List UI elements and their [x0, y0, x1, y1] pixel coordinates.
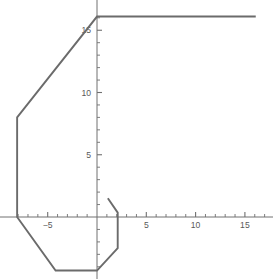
plot-canvas: −55101551015 — [0, 0, 273, 279]
tick-marks — [18, 18, 265, 267]
tick-labels: −55101551015 — [43, 25, 250, 230]
plot-figure: −55101551015 — [0, 0, 273, 279]
x-tick-label: 5 — [144, 220, 149, 230]
x-tick-label: −5 — [43, 220, 53, 230]
axes-group — [0, 0, 273, 279]
data-series — [17, 17, 256, 271]
x-tick-label: 15 — [240, 220, 250, 230]
series-line — [17, 17, 256, 271]
x-tick-label: 10 — [191, 220, 201, 230]
y-tick-label: 5 — [86, 150, 91, 160]
y-tick-label: 10 — [81, 88, 91, 98]
